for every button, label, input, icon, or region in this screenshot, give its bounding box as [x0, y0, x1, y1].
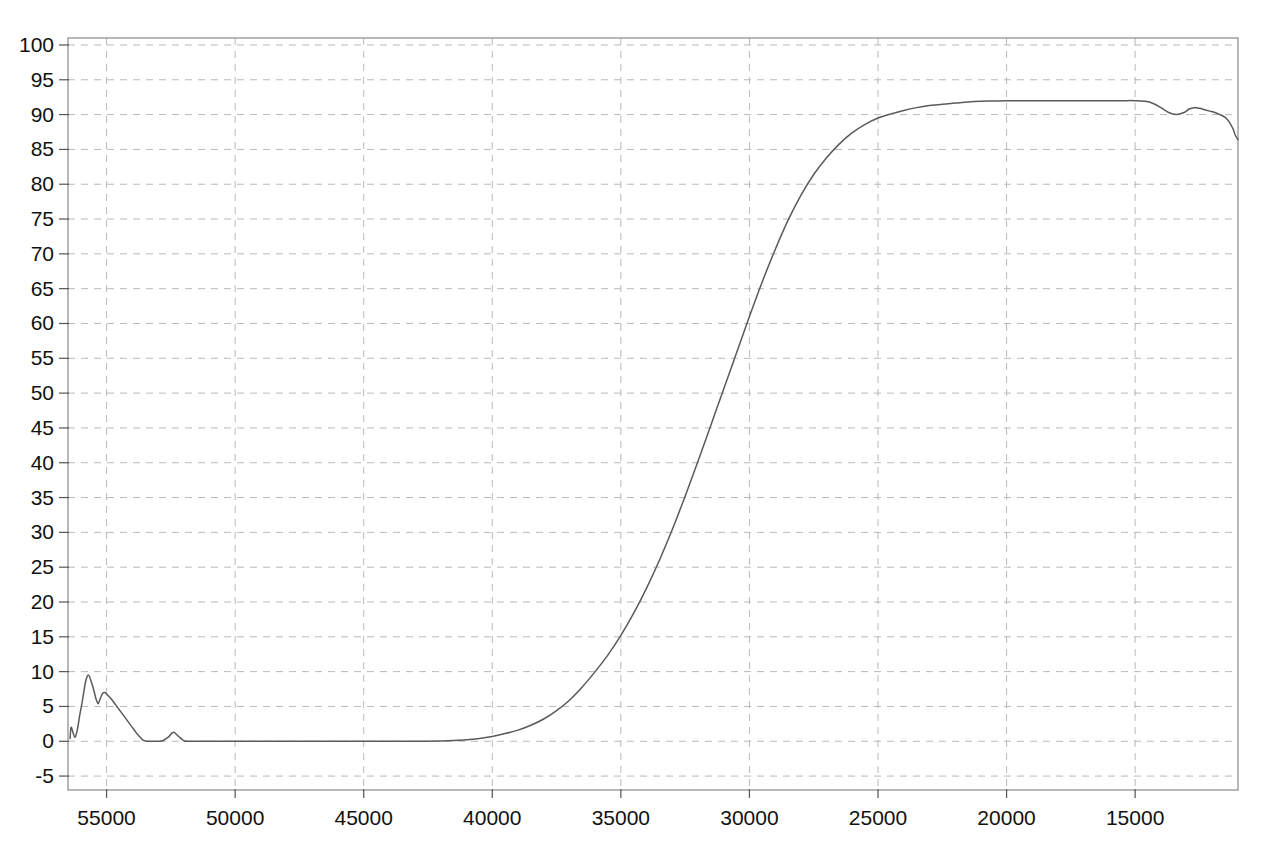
y-tick-label: 15: [31, 625, 54, 648]
x-tick-label: 25000: [849, 806, 907, 829]
x-tick-label: 40000: [463, 806, 521, 829]
y-tick-label: 80: [31, 172, 54, 195]
y-tick-label: 85: [31, 137, 54, 160]
y-tick-label: 100: [19, 33, 54, 56]
x-tick-label: 15000: [1106, 806, 1164, 829]
y-tick-label: 60: [31, 311, 54, 334]
y-tick-label: 90: [31, 103, 54, 126]
x-tick-label: 45000: [335, 806, 393, 829]
y-tick-label: 55: [31, 346, 54, 369]
y-tick-label: 20: [31, 590, 54, 613]
y-tick-label: 5: [42, 694, 54, 717]
y-tick-label: 40: [31, 451, 54, 474]
x-tick-label: 35000: [592, 806, 650, 829]
y-tick-label: -5: [35, 764, 54, 787]
y-tick-label: 95: [31, 68, 54, 91]
y-tick-label: 70: [31, 242, 54, 265]
y-tick-label: 25: [31, 555, 54, 578]
y-tick-label: 0: [42, 729, 54, 752]
x-tick-label: 50000: [206, 806, 264, 829]
y-tick-label: 45: [31, 416, 54, 439]
y-tick-label: 75: [31, 207, 54, 230]
y-tick-label: 10: [31, 660, 54, 683]
y-tick-label: 30: [31, 520, 54, 543]
x-tick-label: 30000: [720, 806, 778, 829]
x-tick-label: 55000: [77, 806, 135, 829]
y-tick-label: 65: [31, 277, 54, 300]
x-tick-label: 20000: [977, 806, 1035, 829]
y-tick-label: 35: [31, 486, 54, 509]
y-tick-label: 50: [31, 381, 54, 404]
spectrum-chart: 1009590858075706560555045403530252015105…: [0, 0, 1277, 855]
chart-container: 1009590858075706560555045403530252015105…: [0, 0, 1277, 855]
